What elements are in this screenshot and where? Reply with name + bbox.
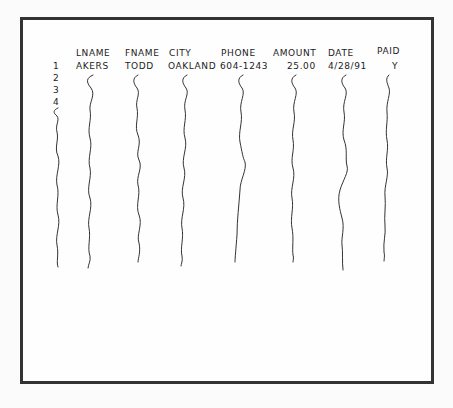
wavy-line-lname	[87, 75, 93, 268]
wavy-line-paid	[384, 75, 390, 261]
wavy-line-rownum	[54, 108, 59, 267]
wavy-line-amount	[291, 75, 296, 262]
wavy-line-phone	[235, 75, 245, 262]
wavy-line-date	[339, 75, 348, 270]
wavy-line-city	[181, 75, 187, 266]
wavy-line-fname	[134, 75, 141, 262]
continuation-wavy-lines	[0, 0, 453, 408]
